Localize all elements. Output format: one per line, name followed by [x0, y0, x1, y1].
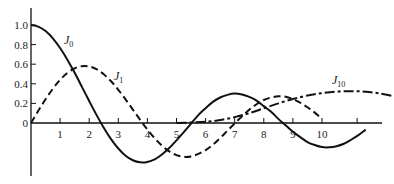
x-tick-label: 10 — [317, 128, 329, 140]
x-tick-label: 8 — [261, 128, 267, 140]
curves — [31, 25, 394, 162]
curve-labels: J0J1J10 — [64, 33, 345, 89]
y-tick-label: 1.0 — [14, 19, 28, 31]
bessel-chart: 1234567891000.20.40.60.81.0 J0J1J10 — [0, 0, 394, 184]
y-tick-label: 0 — [23, 117, 29, 129]
y-tick-label: 0.8 — [14, 39, 28, 51]
y-tick-label: 0.4 — [14, 78, 28, 90]
curve-j1 — [31, 66, 322, 157]
label-j0: J0 — [64, 33, 73, 49]
x-tick-label: 6 — [203, 128, 209, 140]
x-tick-label: 1 — [57, 128, 63, 140]
x-tick-label: 7 — [232, 128, 238, 140]
label-j1: J1 — [114, 69, 123, 85]
y-tick-label: 0.6 — [14, 58, 28, 70]
x-tick-label: 3 — [116, 128, 122, 140]
y-tick-label: 0.2 — [14, 97, 28, 109]
x-tick-label: 2 — [86, 128, 92, 140]
x-tick-label: 4 — [145, 128, 151, 140]
label-j10: J10 — [332, 73, 345, 89]
